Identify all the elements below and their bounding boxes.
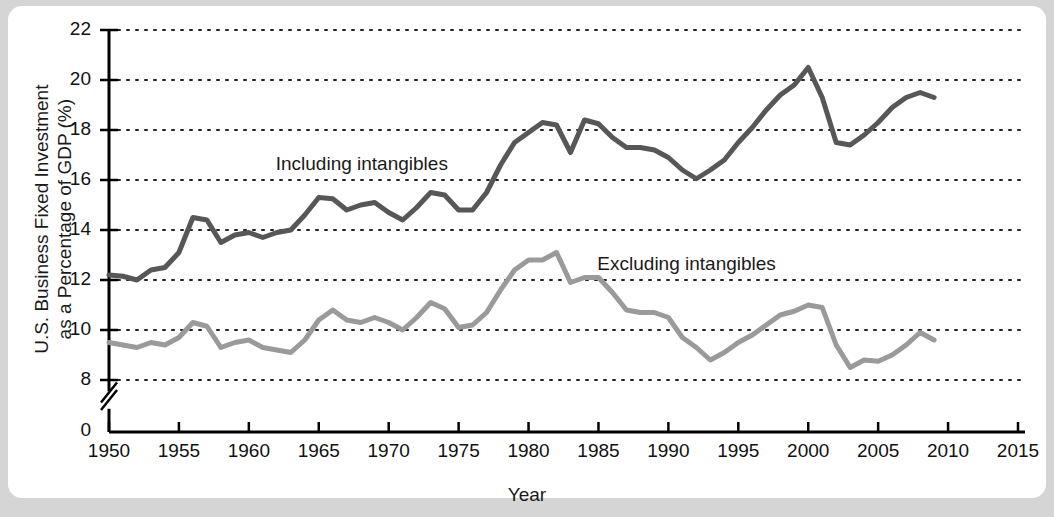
y-tick-label: 16 bbox=[51, 168, 91, 190]
x-axis-title: Year bbox=[0, 484, 1054, 506]
y-tick-label: 20 bbox=[51, 68, 91, 90]
x-tick-label: 1960 bbox=[209, 440, 289, 462]
chart-figure: U.S. Business Fixed Investment as a Perc… bbox=[0, 0, 1054, 517]
series-line-1 bbox=[109, 68, 934, 281]
x-tick-label: 2000 bbox=[768, 440, 848, 462]
axes bbox=[100, 30, 1025, 432]
y-tick-label-zero: 0 bbox=[51, 419, 91, 441]
x-tick-label: 1985 bbox=[558, 440, 638, 462]
y-tick-label: 14 bbox=[51, 218, 91, 240]
y-axis-title-line-1: U.S. Business Fixed Investment bbox=[31, 85, 52, 354]
x-tick-label: 2005 bbox=[838, 440, 918, 462]
x-tick-label: 1990 bbox=[628, 440, 708, 462]
y-tick-label: 22 bbox=[51, 18, 91, 40]
gridlines bbox=[109, 30, 1025, 380]
y-tick-label: 8 bbox=[51, 368, 91, 390]
series-line-2 bbox=[109, 253, 934, 368]
x-tick-label: 1965 bbox=[279, 440, 359, 462]
x-tick-label: 1980 bbox=[489, 440, 569, 462]
x-tick-label: 1995 bbox=[698, 440, 778, 462]
x-tick-label: 2010 bbox=[908, 440, 988, 462]
series-annotation-2: Excluding intangibles bbox=[597, 253, 776, 275]
y-tick-label: 12 bbox=[51, 268, 91, 290]
x-tick-label: 1975 bbox=[419, 440, 499, 462]
x-tick-label: 1955 bbox=[139, 440, 219, 462]
series-annotation-1: Including intangibles bbox=[276, 153, 448, 175]
y-tick-label: 18 bbox=[51, 118, 91, 140]
x-tick-label: 2015 bbox=[978, 440, 1054, 462]
x-tick-label: 1950 bbox=[69, 440, 149, 462]
y-tick-label: 10 bbox=[51, 318, 91, 340]
x-tick-label: 1970 bbox=[349, 440, 429, 462]
